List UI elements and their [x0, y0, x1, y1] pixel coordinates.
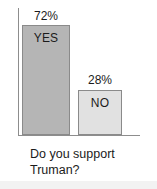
- chart-caption: Do you support Truman?: [30, 146, 150, 179]
- bar-no: NO: [78, 90, 122, 135]
- caption-line-2: Truman?: [30, 162, 150, 178]
- bar-label-yes: YES: [23, 32, 69, 44]
- caption-line-1: Do you support: [30, 146, 150, 162]
- bottom-edge-band: [0, 181, 157, 189]
- bar-value-yes: 72%: [26, 10, 66, 22]
- x-axis-baseline: [18, 135, 140, 136]
- poll-bar-chart: 72% YES 28% NO Do you support Truman?: [0, 0, 157, 189]
- bar-label-no: NO: [79, 97, 121, 109]
- bar-yes: YES: [22, 25, 70, 135]
- y-axis-line: [18, 8, 19, 136]
- bar-value-no: 28%: [78, 74, 122, 86]
